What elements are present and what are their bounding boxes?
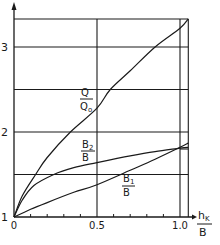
x-axis-label: h K B	[197, 209, 212, 239]
gridlines	[14, 19, 188, 217]
series-label-b1-over-b: B 1 B	[122, 173, 135, 198]
series-label-b2-numerator: B	[82, 139, 89, 150]
series-label-q-over-q0: Q Q o	[80, 87, 93, 114]
series-label-b1-numerator-sub: 1	[130, 178, 134, 186]
series-label-q-numerator: Q	[81, 87, 89, 98]
series-label-b1-numerator: B	[123, 173, 130, 184]
series-line-b1-b	[14, 143, 188, 217]
series-label-b2-denominator: B	[82, 152, 89, 163]
x-tick-label: 0.5	[89, 220, 105, 231]
series-label-b2-over-b: B 2 B	[81, 139, 95, 163]
x-axis-label-denominator: B	[199, 226, 207, 239]
series-line-q-q0	[14, 19, 188, 217]
series-lines	[14, 19, 188, 217]
x-tick-label: 1.0	[172, 220, 188, 231]
y-axis-arrow-icon	[12, 2, 17, 10]
chart: 00.51.0123 h K B Q Q o B 2 B B 1 B	[0, 0, 220, 245]
x-axis-arrow-icon	[192, 215, 197, 220]
x-axis-label-numerator: h	[198, 209, 205, 222]
x-tick-label: 0	[11, 220, 17, 231]
series-line-b2-b	[14, 147, 188, 217]
series-label-q-denominator: Q	[80, 101, 88, 112]
ticks: 00.51.0123	[1, 41, 188, 231]
y-tick-label: 1	[1, 211, 8, 224]
y-tick-label: 3	[1, 41, 8, 54]
series-label-b1-denominator: B	[123, 187, 130, 198]
x-axis-label-numerator-sub: K	[205, 215, 210, 223]
y-tick-label: 2	[1, 126, 8, 139]
axes	[12, 2, 198, 220]
series-label-q-denominator-sub: o	[88, 106, 92, 114]
